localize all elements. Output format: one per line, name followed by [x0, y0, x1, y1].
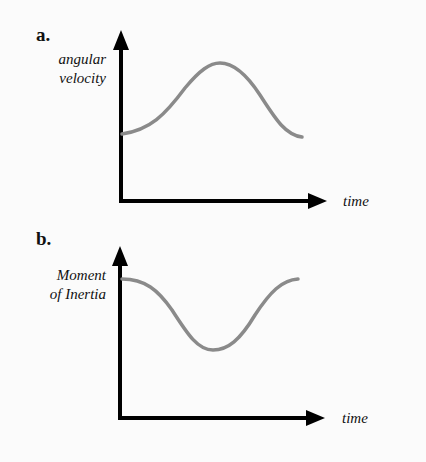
- panel-b-y-arrow-icon: [112, 246, 128, 266]
- panel-b-curve: [122, 279, 298, 350]
- diagram-canvas: [0, 0, 426, 462]
- panel-a-curve: [122, 63, 302, 137]
- panel-a-x-arrow-icon: [308, 193, 327, 209]
- panel-a-y-arrow-icon: [113, 30, 129, 50]
- panel-b-x-arrow-icon: [306, 410, 325, 426]
- panel-a-axes: [113, 30, 327, 209]
- panel-b-axes: [112, 246, 325, 426]
